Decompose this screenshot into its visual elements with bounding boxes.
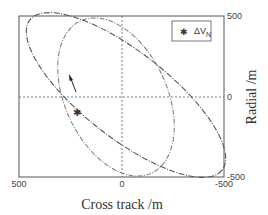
chart-canvas: ✱ ✱ ΔVN 500 0 -500 500 0 -500 Cross trac… (0, 0, 268, 215)
y-tick-0: 0 (227, 92, 232, 102)
y-tick-neg500: -500 (227, 172, 245, 182)
delta-v-marker-icon: ✱ (73, 107, 81, 118)
x-tick-0: 0 (119, 179, 124, 189)
y-axis-label: Radial /m (244, 69, 259, 124)
legend-marker-icon: ✱ (180, 27, 188, 37)
x-tick-500: 500 (11, 179, 26, 189)
direction-arrow-icon (69, 74, 76, 92)
y-tick-500: 500 (227, 11, 242, 21)
orbit-ellipse-wide (3, 0, 248, 204)
x-axis-label: Cross track /m (81, 197, 163, 212)
